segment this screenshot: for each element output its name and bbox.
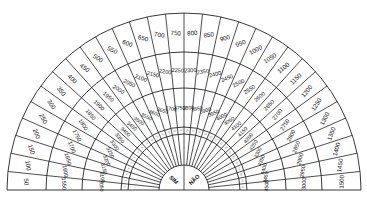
sector-label-index: 27 [238, 166, 242, 170]
sector-label-outer: 350 [56, 85, 68, 98]
yes-label: SIM [168, 174, 180, 186]
sector-label-outer: 250 [38, 112, 49, 125]
sector-label-outer: 700 [154, 30, 166, 39]
sector-label-outer: 1200 [299, 83, 313, 99]
sector-label-index: 10 [150, 138, 154, 142]
sector-label-index: 17 [192, 129, 196, 132]
sector-label-outer: 50 [23, 178, 30, 186]
sector-label-index: 3 [125, 174, 128, 177]
sector-label-outer: 1500 [337, 174, 345, 189]
sector-label-index: 5 [129, 162, 133, 165]
sector-label-middle: 2200 [159, 68, 172, 76]
sector-label-outer: 1450 [335, 157, 344, 172]
sector-label-middle: 2850 [291, 140, 301, 154]
sector-label-outer: 200 [32, 127, 42, 140]
sector-label-outer: 1100 [276, 60, 291, 74]
sector-label-outer: 150 [27, 143, 37, 155]
sector-label-index: 9 [145, 142, 148, 146]
sector-label-middle: 2450 [220, 73, 234, 83]
pendulum-chart: 5010015020025030035040045050055060065070… [0, 0, 367, 200]
sector-label-middle: 3000 [301, 177, 308, 190]
sector-label-middle: 1550 [61, 177, 68, 190]
sector-label-outer: 400 [67, 73, 80, 86]
sector-label-outer: 1150 [288, 71, 303, 86]
sector-label-outer: 1050 [262, 51, 278, 65]
sector-label-middle: 1650 [64, 152, 73, 166]
sector-label-index: 19 [204, 132, 208, 136]
sector-label-index: 1 [123, 186, 126, 188]
sector-label-middle: 2950 [299, 165, 307, 178]
sector-label-index: 7 [136, 151, 140, 154]
sector-label-index: 24 [228, 150, 232, 154]
sector-label-outer: 100 [24, 160, 33, 172]
sector-label-index: 6 [132, 156, 136, 159]
sector-label-outer: 950 [234, 38, 247, 48]
sector-label-index: 14 [173, 130, 177, 133]
sector-label-outer: 1350 [325, 125, 337, 141]
no-label: NÃO [188, 173, 201, 186]
sector-label-index: 23 [224, 145, 228, 149]
sector-label-middle: 2300 [184, 67, 197, 74]
sector-label-index: 20 [209, 135, 213, 139]
sector-label-outer: 850 [203, 30, 215, 39]
center-yes-no: NÃO SIM [168, 173, 201, 186]
sector-label-index: 21 [214, 138, 218, 142]
sector-label-index: 28 [240, 172, 244, 176]
sector-label-outer: 300 [46, 98, 58, 111]
sector-label-inner: 4500 [263, 180, 270, 192]
sector-label-index: 25 [232, 155, 236, 159]
sector-label-index: 2 [124, 180, 127, 182]
sector-label-outer: 550 [106, 44, 119, 55]
sector-label-index: 8 [140, 146, 144, 150]
sector-label-outer: 500 [92, 52, 105, 64]
sector-label-index: 22 [219, 141, 223, 145]
sector-label-middle: 2250 [171, 67, 184, 74]
sector-label-index: 30 [242, 185, 245, 188]
sector-label-index: 29 [241, 178, 244, 182]
sector-label-index: 16 [186, 129, 189, 132]
sector-label-outer: 900 [219, 33, 231, 43]
sector-label-index: 4 [127, 168, 131, 171]
sector-label-index: 26 [235, 161, 239, 165]
sector-label-index: 13 [167, 131, 171, 135]
sector-label-outer: 650 [137, 33, 149, 43]
sector-label-outer: 1300 [318, 110, 331, 126]
sector-label-middle: 1600 [62, 165, 70, 178]
sector-label-index: 12 [161, 133, 165, 137]
sector-label-middle: 2150 [146, 70, 160, 79]
sector-label-outer: 800 [187, 29, 198, 37]
sector-label-outer: 1400 [331, 141, 341, 157]
sector-label-middle: 2350 [196, 68, 209, 76]
sector-label-outer: 450 [79, 62, 92, 74]
sector-spokes [8, 13, 360, 190]
sector-label-outer: 1000 [248, 43, 264, 56]
sector-label-index: 15 [179, 129, 182, 132]
sector-label-index: 18 [198, 131, 202, 135]
sector-label-outer: 600 [121, 38, 134, 48]
sector-label-outer: 750 [170, 29, 181, 37]
semicircle-dial: 5010015020025030035040045050055060065070… [0, 0, 367, 200]
sector-label-middle: 2900 [295, 152, 304, 166]
sector-label-index: 11 [155, 135, 159, 139]
sector-label-outer: 1250 [309, 96, 323, 112]
